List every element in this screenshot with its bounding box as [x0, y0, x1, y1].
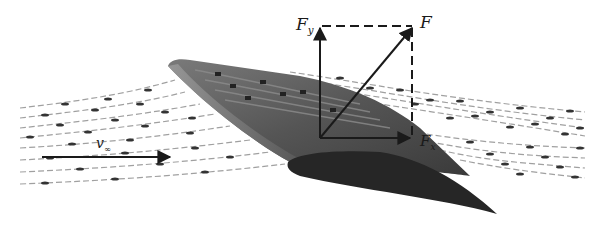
label-lift: Fy — [296, 14, 314, 36]
label-velocity: v∞ — [96, 135, 111, 154]
label-drag: Fx — [420, 132, 436, 152]
wing-force-diagram: Fy F Fx v∞ — [0, 0, 601, 225]
label-resultant: F — [420, 12, 432, 32]
